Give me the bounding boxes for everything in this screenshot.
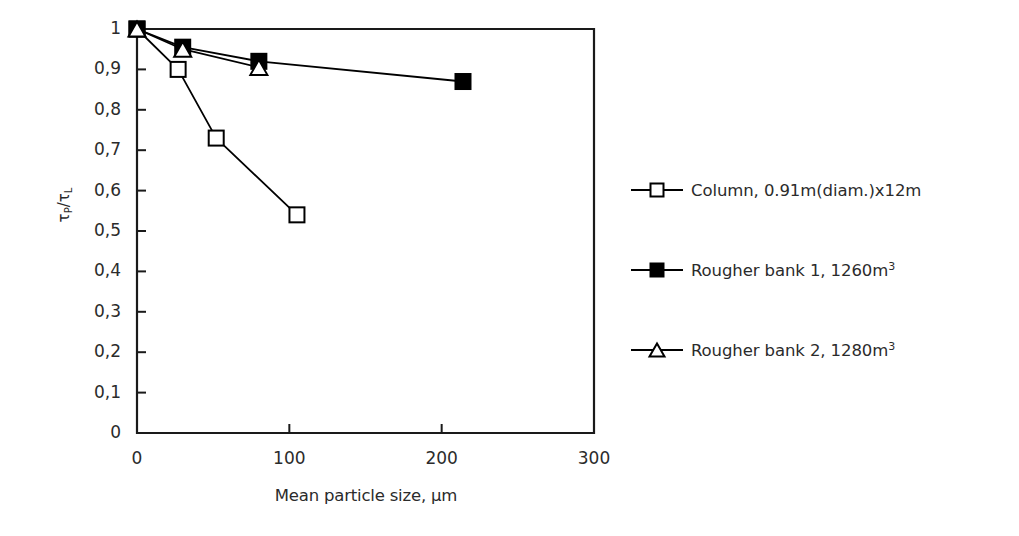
legend-entry-2[interactable]: Rougher bank 2, 1280m3 (630, 336, 1010, 364)
plot-frame (137, 29, 594, 433)
legend-label-superscript: 3 (888, 259, 895, 272)
plot-border (137, 29, 594, 433)
y-axis-title-subscript-l: L (63, 188, 74, 194)
series-0-marker-3 (289, 207, 304, 222)
legend-label-text: Rougher bank 2, 1280m (691, 341, 888, 360)
legend-entry-1[interactable]: Rougher bank 1, 1260m3 (630, 256, 1010, 284)
legend-swatch-svg (630, 339, 684, 361)
y-axis-title-tau-p-symbol: τ (55, 213, 73, 222)
y-tick-label: 0,2 (61, 341, 121, 361)
series-0-marker-2 (209, 131, 224, 146)
data-series-group (129, 22, 471, 223)
y-tick-label: 0 (61, 422, 121, 442)
series-0-marker-1 (171, 62, 186, 77)
legend-marker-filled-square-icon (630, 259, 684, 281)
legend-label-0: Column, 0.91m(diam.)x12m (691, 181, 921, 200)
series-1-marker-3 (455, 74, 470, 89)
legend-label-superscript: 3 (888, 339, 895, 352)
y-axis-title: τP/τL (55, 155, 73, 255)
x-axis-title: Mean particle size, µm (137, 486, 595, 505)
legend-label-text: Column, 0.91m(diam.)x12m (691, 181, 921, 200)
legend-marker-open-triangle-icon (630, 339, 684, 361)
legend-label-1: Rougher bank 1, 1260m3 (691, 261, 895, 280)
axis-ticks (137, 29, 594, 433)
legend-swatch-svg (630, 259, 684, 281)
x-tick-label: 300 (564, 448, 624, 468)
legend-label-text: Rougher bank 1, 1260m (691, 261, 888, 280)
y-axis-title-subscript-p: P (63, 207, 74, 213)
legend-label-2: Rougher bank 2, 1280m3 (691, 341, 895, 360)
x-tick-label: 0 (107, 448, 167, 468)
y-tick-label: 0,3 (61, 301, 121, 321)
legend-swatch-svg (630, 179, 684, 201)
x-tick-label: 100 (259, 448, 319, 468)
chart-legend: Column, 0.91m(diam.)x12mRougher bank 1, … (630, 176, 1010, 364)
legend-entry-0[interactable]: Column, 0.91m(diam.)x12m (630, 176, 1010, 204)
legend-marker-open-square-icon (630, 179, 684, 201)
chart-figure: 00,10,20,30,40,50,60,70,80,91 0100200300… (0, 0, 1019, 536)
y-tick-label: 1 (61, 18, 121, 38)
x-tick-label: 200 (412, 448, 472, 468)
legend-marker-glyph (651, 184, 664, 197)
y-tick-label: 0,8 (61, 99, 121, 119)
y-tick-label: 0,4 (61, 260, 121, 280)
y-axis-title-tau-l-symbol: τ (55, 193, 73, 202)
y-tick-label: 0,1 (61, 382, 121, 402)
legend-marker-glyph (651, 264, 664, 277)
y-tick-label: 0,9 (61, 58, 121, 78)
